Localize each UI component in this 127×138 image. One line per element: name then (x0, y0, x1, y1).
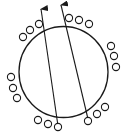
small-circle (65, 14, 72, 21)
small-circle (107, 42, 114, 49)
small-circle (7, 73, 14, 80)
small-circle (101, 103, 108, 110)
small-circle (85, 20, 92, 27)
small-circle (112, 63, 119, 70)
small-circle (34, 116, 41, 123)
arrow-2 (61, 5, 88, 119)
small-circle (110, 52, 117, 59)
small-circle (44, 120, 51, 127)
small-circles-group (7, 14, 119, 130)
small-circle (54, 123, 61, 130)
small-circle (35, 20, 42, 27)
small-circle (13, 94, 20, 101)
diagram-canvas (0, 0, 127, 138)
small-circle (93, 110, 100, 117)
small-circle (84, 117, 91, 124)
small-circle (9, 84, 16, 91)
small-circle (75, 16, 82, 23)
main-circle (19, 27, 108, 118)
small-circle (19, 33, 26, 40)
small-circle (26, 26, 33, 33)
